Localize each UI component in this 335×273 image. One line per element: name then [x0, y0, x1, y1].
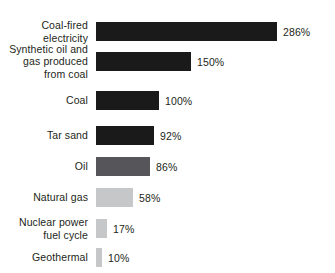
- bar-container: 286%: [88, 22, 335, 41]
- bar: [96, 157, 150, 176]
- value-label: 58%: [133, 192, 160, 204]
- bar-row-natural-gas: Natural gas58%: [0, 188, 335, 207]
- bar: [96, 91, 159, 110]
- value-label: 100%: [159, 95, 192, 107]
- bar-chart: Coal-fired electricity286%Synthetic oil …: [0, 0, 335, 273]
- bar-container: 10%: [88, 248, 335, 267]
- bar: [96, 52, 191, 71]
- category-label: Geothermal: [0, 251, 88, 263]
- value-label: 17%: [107, 223, 134, 235]
- bar: [96, 22, 277, 41]
- bar: [96, 188, 133, 207]
- bar-row-geothermal: Geothermal10%: [0, 248, 335, 267]
- bar-row-coal: Coal100%: [0, 91, 335, 110]
- bar-container: 92%: [88, 126, 335, 145]
- bar-container: 17%: [88, 219, 335, 238]
- bar-container: 100%: [88, 91, 335, 110]
- value-label: 10%: [102, 252, 129, 264]
- bar-row-synthetic-oil-and-gas-produced-from-coal: Synthetic oil and gas produced from coal…: [0, 52, 335, 71]
- value-label: 286%: [277, 26, 310, 38]
- category-label: Synthetic oil and gas produced from coal: [0, 43, 88, 80]
- category-label: Nuclear power fuel cycle: [0, 216, 88, 241]
- category-label: Coal: [0, 94, 88, 106]
- value-label: 86%: [150, 161, 177, 173]
- bar-container: 58%: [88, 188, 335, 207]
- category-label: Tar sand: [0, 129, 88, 141]
- bar: [96, 219, 107, 238]
- bar-row-nuclear-power-fuel-cycle: Nuclear power fuel cycle17%: [0, 219, 335, 238]
- bar-row-coal-fired-electricity: Coal-fired electricity286%: [0, 22, 335, 41]
- category-label: Coal-fired electricity: [0, 19, 88, 44]
- value-label: 92%: [154, 130, 181, 142]
- value-label: 150%: [191, 56, 224, 68]
- category-label: Natural gas: [0, 191, 88, 203]
- category-label: Oil: [0, 160, 88, 172]
- bar: [96, 126, 154, 145]
- bar-container: 150%: [88, 52, 335, 71]
- bar-row-tar-sand: Tar sand92%: [0, 126, 335, 145]
- bar-row-oil: Oil86%: [0, 157, 335, 176]
- bar-container: 86%: [88, 157, 335, 176]
